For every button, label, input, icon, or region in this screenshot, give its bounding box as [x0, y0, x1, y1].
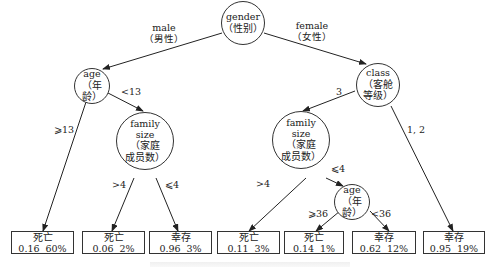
leaf-class: 死亡 — [218, 232, 279, 243]
leaf-1: 死亡 0.1660% — [11, 231, 74, 254]
node-family-right-en1: family — [286, 118, 316, 129]
branch-age-ge13: ⩾13 — [54, 124, 74, 135]
leaf-pct: 12% — [387, 243, 408, 254]
node-family-left-zh1: （家庭 — [130, 140, 160, 152]
leaf-prob: 0.62 — [360, 243, 381, 254]
node-family-size-right: family size （家庭 成员数） — [272, 111, 330, 169]
leaf-4: 死亡 0.113% — [217, 231, 280, 254]
leaf-prob: 0.14 — [293, 243, 314, 254]
node-age-right-en: age — [343, 185, 360, 196]
leaf-pct: 19% — [457, 243, 478, 254]
leaf-prob: 0.11 — [227, 243, 248, 254]
node-gender-zh: （性别） — [223, 23, 263, 35]
node-age-right: age （年龄） — [334, 184, 370, 220]
branch-family-left-gt4: >4 — [112, 179, 126, 190]
leaf-prob: 0.96 — [159, 243, 180, 254]
node-age-left: age （年龄） — [74, 68, 110, 104]
branch-male-zh: （男性） — [141, 33, 187, 44]
leaf-pct: 3% — [187, 243, 202, 254]
node-family-right-zh1: （家庭 — [286, 139, 316, 151]
branch-age-lt13: <13 — [121, 86, 141, 97]
leaf-class: 幸存 — [353, 232, 415, 243]
leaf-prob: 0.95 — [430, 243, 451, 254]
leaf-pct: 60% — [46, 243, 67, 254]
branch-female: female （女性） — [287, 20, 337, 43]
branch-family-left-le4: ⩽4 — [165, 179, 179, 190]
leaf-class: 死亡 — [83, 232, 144, 243]
node-family-size-left: family size （家庭 成员数） — [116, 112, 174, 170]
leaf-pct: 1% — [320, 243, 335, 254]
leaf-pct: 2% — [120, 243, 135, 254]
branch-female-en: female — [287, 20, 337, 31]
node-age-left-en: age — [83, 69, 100, 80]
node-family-right-en2: size — [292, 129, 311, 140]
branch-male-en: male — [141, 22, 187, 33]
branch-family-right-gt4: >4 — [256, 178, 270, 189]
leaf-class: 幸存 — [150, 232, 211, 243]
node-age-right-zh: （年龄） — [335, 196, 369, 219]
leaf-5: 死亡 0.141% — [284, 231, 344, 254]
node-age-left-zh: （年龄） — [75, 80, 109, 103]
leaf-class: 幸存 — [424, 232, 484, 243]
node-family-left-en1: family — [130, 119, 160, 130]
leaf-3: 幸存 0.963% — [149, 231, 212, 254]
branch-age-lt36: <36 — [371, 208, 391, 219]
node-class-en: class — [366, 68, 390, 79]
branch-class-3: 3 — [336, 86, 342, 97]
leaf-6: 幸存 0.6212% — [352, 231, 416, 254]
branch-family-right-le4: ⩽4 — [331, 163, 345, 174]
node-gender-en: gender — [226, 12, 260, 23]
node-family-left-zh2: 成员数） — [125, 152, 165, 164]
figure-caption-cut-off — [150, 262, 350, 267]
branch-female-zh: （女性） — [287, 31, 337, 42]
leaf-pct: 3% — [255, 243, 270, 254]
branch-male: male （男性） — [141, 22, 187, 45]
leaf-7: 幸存 0.9519% — [423, 231, 485, 254]
node-class: class （客舱 等级） — [356, 63, 400, 107]
branch-class-12: 1, 2 — [407, 124, 425, 135]
node-family-left-en2: size — [136, 130, 155, 141]
branch-age-ge36: ⩾36 — [308, 208, 328, 219]
node-family-right-zh2: 成员数） — [281, 151, 321, 163]
node-class-zh1: （客舱 — [363, 79, 393, 91]
node-gender: gender （性别） — [221, 1, 265, 45]
leaf-prob: 0.06 — [92, 243, 113, 254]
leaf-class: 死亡 — [12, 232, 73, 243]
node-class-zh2: 等级） — [363, 90, 393, 102]
leaf-2: 死亡 0.062% — [82, 231, 145, 254]
leaf-prob: 0.16 — [18, 243, 39, 254]
leaf-class: 死亡 — [285, 232, 343, 243]
